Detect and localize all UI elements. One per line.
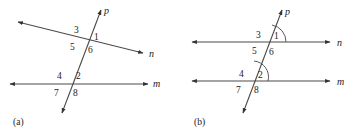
- figure-container: p n m 3 1 5 6 4 2 7 8 (a): [0, 0, 361, 136]
- angle-1-a: 1: [94, 32, 99, 42]
- line-p-a: [62, 10, 101, 113]
- angle-3-b: 3: [256, 30, 261, 40]
- angle-5-a: 5: [70, 42, 75, 52]
- label-line-p-b: p: [284, 6, 290, 17]
- label-line-m-b: m: [337, 76, 344, 87]
- label-line-n-b: n: [337, 37, 342, 48]
- angle-6-b: 6: [269, 47, 274, 57]
- label-line-m-a: m: [153, 78, 160, 89]
- angle-4-a: 4: [57, 71, 62, 81]
- angle-4-b: 4: [239, 69, 244, 79]
- angle-8-b: 8: [254, 85, 259, 95]
- angle-1-b: 1: [274, 31, 279, 41]
- angle-5-b: 5: [252, 46, 257, 56]
- line-n-a: [18, 22, 143, 53]
- caption-b: (b): [194, 117, 205, 128]
- angle-2-b: 2: [258, 70, 263, 80]
- angle-8-a: 8: [73, 88, 78, 98]
- label-line-p-a: p: [103, 5, 109, 16]
- caption-a: (a): [13, 117, 24, 128]
- angle-2-a: 2: [76, 71, 81, 81]
- angle-7-b: 7: [236, 85, 241, 95]
- angle-7-a: 7: [54, 88, 59, 98]
- line-p-b: [243, 10, 282, 113]
- label-line-n-a: n: [149, 48, 154, 59]
- angle-3-a: 3: [74, 25, 79, 35]
- panel-a-group: p n m 3 1 5 6 4 2 7 8 (a): [10, 5, 160, 128]
- angle-6-a: 6: [88, 45, 93, 55]
- panel-b-group: p n m 3 1 5 6 4 2 7 8 (b): [192, 6, 344, 128]
- geometry-figure-svg: p n m 3 1 5 6 4 2 7 8 (a): [0, 0, 361, 136]
